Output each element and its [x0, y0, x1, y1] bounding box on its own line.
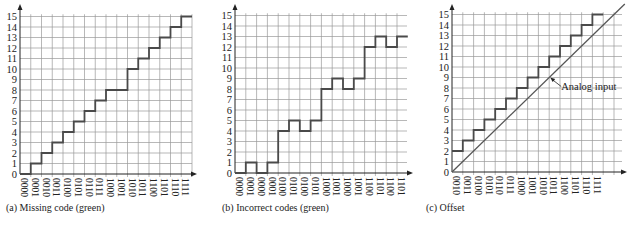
y-tick-label: 8	[227, 84, 232, 95]
chart-panel-offset: 0123456789101112131415001000110100010101…	[420, 0, 633, 225]
x-tick-label: 0100	[473, 176, 483, 195]
y-tick-label: 1	[444, 156, 449, 167]
x-tick-label: 0101	[484, 176, 494, 195]
y-tick-label: 2	[227, 147, 232, 158]
y-tick-label: 5	[444, 114, 449, 125]
y-tick-label: 2	[444, 146, 449, 157]
x-tick-label: 0010	[41, 178, 51, 197]
x-tick-label: 1111	[180, 178, 190, 196]
x-tick-label: 0101	[288, 177, 298, 196]
y-tick-label: 9	[12, 74, 17, 85]
x-tick-label: 0011	[51, 178, 61, 197]
x-tick-label: 0111	[505, 176, 515, 195]
y-axis-arrow-icon	[450, 4, 455, 10]
chart-missing-code: 0123456789101112131415000000010010001101…	[0, 0, 210, 200]
annotation-label: Analog input	[561, 81, 616, 92]
x-tick-label: 1001	[353, 177, 363, 196]
x-tick-label: 1110	[170, 178, 180, 197]
y-tick-label: 4	[444, 125, 450, 136]
y-tick-label: 12	[439, 41, 450, 52]
y-axis-arrow-icon	[233, 4, 238, 10]
x-tick-label: 1000	[516, 176, 526, 195]
caption-incorrect-codes: (b) Incorrect codes (green)	[222, 202, 329, 213]
x-tick-label: 0110	[494, 176, 504, 195]
x-tick-label: 1010	[127, 178, 137, 197]
x-tick-label: 1011	[137, 178, 147, 197]
x-tick-label: 1010	[538, 176, 548, 195]
chart-panel-missing-code: 0123456789101112131415000000010010001101…	[0, 0, 210, 225]
y-axis-arrow-icon	[18, 4, 23, 10]
x-tick-label: 1111	[592, 176, 602, 194]
x-tick-label: 1100	[364, 177, 374, 196]
x-tick-label: 0100	[62, 178, 72, 197]
y-tick-label: 5	[227, 115, 232, 126]
x-axis-arrow-icon	[621, 170, 627, 175]
y-tick-label: 10	[7, 64, 18, 75]
y-tick-label: 7	[444, 93, 449, 104]
x-tick-label: 0101	[310, 177, 320, 196]
x-tick-label: 0000	[256, 177, 266, 196]
x-tick-label: 0010	[451, 176, 461, 195]
y-tick-label: 15	[222, 10, 233, 21]
y-tick-label: 10	[222, 63, 233, 74]
x-tick-label: 0011	[462, 176, 472, 195]
x-tick-label: 1101	[375, 177, 385, 196]
x-tick-label: 1101	[159, 178, 169, 197]
x-tick-label: 1000	[342, 177, 352, 196]
chart-incorrect-codes: 0123456789101112131415000000010000000101…	[210, 0, 425, 200]
x-tick-label: 1101	[396, 177, 406, 196]
x-tick-label: 1000	[105, 178, 115, 197]
x-tick-label: 1100	[148, 178, 158, 197]
y-tick-label: 9	[444, 72, 449, 83]
y-tick-label: 14	[7, 22, 18, 33]
y-tick-label: 7	[227, 94, 232, 105]
caption-offset: (c) Offset	[426, 202, 464, 213]
y-tick-label: 7	[12, 95, 17, 106]
x-tick-label: 0001	[267, 177, 277, 196]
y-tick-label: 12	[222, 42, 233, 53]
x-tick-label: 1001	[331, 177, 341, 196]
y-tick-label: 13	[439, 30, 450, 41]
y-tick-label: 14	[439, 20, 450, 31]
x-tick-label: 0110	[84, 178, 94, 197]
y-tick-label: 11	[7, 53, 17, 64]
chart-panel-incorrect-codes: 0123456789101112131415000000010000000101…	[210, 0, 425, 225]
x-axis-arrow-icon	[191, 172, 197, 177]
y-tick-label: 3	[227, 136, 232, 147]
y-tick-label: 9	[227, 73, 232, 84]
x-axis-arrow-icon	[407, 171, 413, 176]
x-tick-label: 0001	[30, 178, 40, 197]
x-tick-label: 0111	[94, 178, 104, 197]
x-tick-label: 1100	[559, 176, 569, 195]
x-tick-label: 1110	[581, 176, 591, 195]
x-tick-label: 1100	[385, 177, 395, 196]
y-tick-label: 3	[12, 137, 17, 148]
y-tick-label: 15	[7, 11, 18, 22]
y-tick-label: 1	[227, 157, 232, 168]
x-tick-label: 1001	[116, 178, 126, 197]
x-tick-label: 1001	[527, 176, 537, 195]
y-tick-label: 12	[7, 43, 18, 54]
x-tick-label: 0100	[277, 177, 287, 196]
x-tick-label: 0001	[245, 177, 255, 196]
y-tick-label: 3	[444, 135, 449, 146]
y-tick-label: 5	[12, 116, 17, 127]
y-tick-label: 6	[227, 105, 232, 116]
y-tick-label: 15	[439, 9, 450, 20]
y-tick-label: 8	[12, 85, 17, 96]
y-tick-label: 0	[444, 167, 449, 178]
x-tick-label: 0100	[299, 177, 309, 196]
y-tick-label: 14	[222, 21, 233, 32]
y-tick-label: 4	[12, 127, 18, 138]
chart-offset: 0123456789101112131415001000110100010101…	[420, 0, 633, 200]
y-tick-label: 6	[12, 106, 17, 117]
y-tick-label: 0	[12, 169, 17, 180]
x-tick-label: 1000	[321, 177, 331, 196]
grid	[452, 12, 622, 175]
caption-missing-code: (a) Missing code (green)	[6, 202, 105, 213]
y-tick-label: 13	[7, 32, 18, 43]
y-tick-label: 0	[227, 168, 232, 179]
y-tick-label: 8	[444, 83, 449, 94]
y-tick-label: 1	[12, 158, 17, 169]
x-tick-label: 1101	[570, 176, 580, 195]
